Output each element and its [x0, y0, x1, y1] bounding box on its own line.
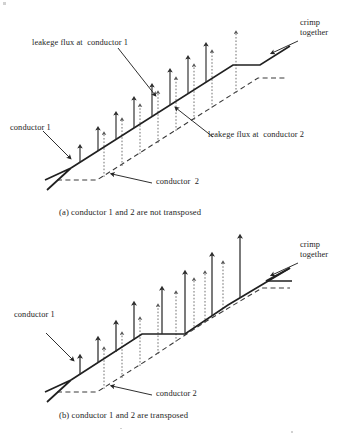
figure-b-conductor1-line [45, 268, 292, 402]
figure-b-caption: (b) conductor 1 and 2 are transposed [59, 410, 188, 420]
figure-a-label-conductor1: conductor 1 [10, 123, 51, 133]
figure-b-label-conductor2: conductor 2 [156, 389, 197, 399]
figure-a-graphic [43, 32, 298, 190]
figure-a-label-crimp-line1: crimp [300, 18, 320, 28]
figure-b-conductor2-line [57, 288, 290, 392]
figure-a-conductor2-line [57, 78, 285, 180]
figure-a-flux-arrows-conductor1 [80, 44, 206, 163]
figure-b-label-crimp-line1: crimp [300, 240, 320, 250]
figure-b-leader-lines [46, 263, 298, 395]
figure-b-label-crimp-line2: together [300, 250, 328, 260]
figure-a-caption: (a) conductor 1 and 2 are not transposed [59, 207, 201, 217]
scan-speck [120, 428, 122, 429]
figure-b-label-conductor1: conductor 1 [14, 310, 55, 320]
figure-b-graphic [45, 236, 298, 402]
scan-speck [291, 431, 293, 433]
figure-b-flux-arrows-conductor2 [104, 262, 223, 389]
figure-a-conductor1-line [45, 46, 290, 190]
figure-a-label-flux-conductor2: leakege flux at conductor 2 [208, 130, 304, 140]
figure-a-label-flux-conductor1: leakege flux at conductor 1 [32, 38, 128, 48]
scan-speck [3, 2, 6, 5]
figure-canvas [0, 0, 350, 436]
figure-a-label-crimp-line2: together [300, 28, 328, 38]
figure-a-label-conductor2: conductor 2 [156, 177, 199, 187]
